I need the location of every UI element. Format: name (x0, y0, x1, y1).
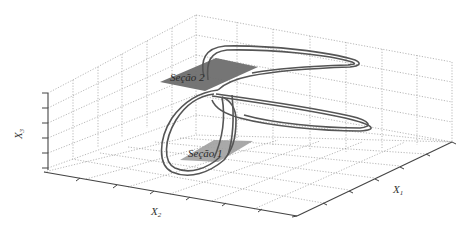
grid-back-right-wall (196, 15, 452, 152)
x2-axis (44, 172, 297, 216)
phase-portrait-figure: Seção 2 Seção 1 X3 X2 X1 (0, 0, 469, 233)
z-axis-label: X3 (12, 128, 26, 140)
x1-axis (297, 142, 452, 216)
svg-text:X3: X3 (12, 128, 26, 140)
x1-axis-label: X1 (392, 183, 403, 197)
section-1-label: Seção 1 (188, 147, 223, 159)
axes (42, 93, 456, 217)
section-2-label: Seção 2 (170, 71, 205, 83)
x2-axis-label: X2 (150, 205, 162, 219)
grid-back-left-wall (48, 15, 196, 168)
grid-floor (44, 135, 452, 209)
